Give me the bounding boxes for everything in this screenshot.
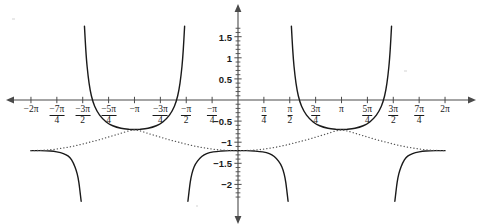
y-axis-minor-tick-marks [236, 28, 241, 197]
x-tick-value: −π [129, 105, 139, 115]
fraction-denominator: 2 [287, 115, 292, 126]
x-axis-tick-label: 7π4 [414, 105, 424, 125]
fraction-numerator: −3π [153, 105, 168, 115]
x-axis-tick-label: 3π4 [311, 105, 321, 125]
y-axis-tick-label: 1 [0, 52, 232, 63]
solid-curve [395, 151, 445, 202]
y-axis-tick-label: −1.5 [0, 158, 232, 169]
x-axis-tick-label: 2π [440, 105, 450, 115]
trigonometric-function-plot: −2π−7π4−3π2−5π4−π−3π4−π2−π4π4π23π4π5π43π… [0, 0, 482, 224]
x-axis-tick-label: 3π2 [389, 105, 399, 125]
x-axis-tick-label: π [339, 105, 344, 115]
y-axis-tick-label: −0.5 [0, 116, 232, 127]
fraction-numerator: 3π [389, 105, 399, 115]
fraction-denominator: 2 [389, 115, 399, 126]
fraction-numerator: 7π [414, 105, 424, 115]
fraction-denominator: 4 [414, 115, 424, 126]
fraction-denominator: 4 [261, 115, 266, 126]
x-axis-tick-label: −2π [24, 105, 39, 115]
x-axis-tick-label: π2 [287, 105, 292, 125]
y-axis-top-arrowhead [235, 4, 242, 12]
y-axis-bottom-arrowhead [235, 216, 242, 224]
x-tick-value: 2π [440, 105, 450, 115]
fraction-numerator: −π [181, 105, 191, 115]
x-axis-tick-label: π4 [261, 105, 266, 125]
x-axis-tick-label: 5π4 [363, 105, 373, 125]
x-axis-tick-label: −π [129, 105, 139, 115]
x-axis-left-arrowhead [6, 97, 14, 104]
fraction-numerator: 3π [311, 105, 321, 115]
x-axis-right-arrowhead [468, 97, 476, 104]
x-tick-value: π [339, 105, 344, 115]
fraction-numerator: −7π [49, 105, 64, 115]
fraction-denominator: 4 [311, 115, 321, 126]
y-axis-tick-label: −1 [0, 137, 232, 148]
fraction-numerator: π [261, 105, 266, 115]
fraction-numerator: π [287, 105, 292, 115]
fraction-numerator: 5π [363, 105, 373, 115]
fraction-denominator: 4 [363, 115, 373, 126]
x-tick-value: −2π [24, 105, 39, 115]
y-axis-tick-label: 1.5 [0, 31, 232, 42]
y-axis-tick-label: −2 [0, 179, 232, 190]
fraction-numerator: −3π [75, 105, 90, 115]
fraction-numerator: −π [207, 105, 217, 115]
y-axis-tick-label: 0.5 [0, 73, 232, 84]
fraction-numerator: −5π [101, 105, 116, 115]
